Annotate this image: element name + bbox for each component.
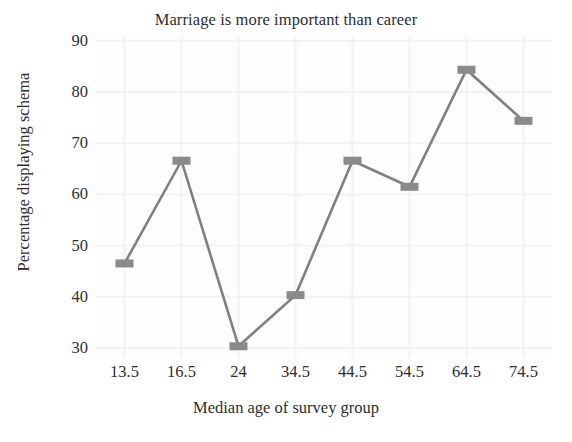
y-tick-label: 60: [46, 184, 88, 204]
y-tick-label: 80: [46, 82, 88, 102]
y-tick-label: 30: [46, 338, 88, 358]
y-tick-label: 90: [46, 31, 88, 51]
x-tick-label: 74.5: [489, 362, 559, 382]
y-tick-label: 70: [46, 133, 88, 153]
y-axis-tick-labels: 30405060708090: [40, 36, 88, 358]
chart-title: Marriage is more important than career: [0, 10, 572, 30]
y-tick-label: 50: [46, 236, 88, 256]
chart-figure: Marriage is more important than career P…: [0, 0, 572, 442]
y-axis-label: Percentage displaying schema: [14, 0, 34, 372]
data-series-line: [96, 36, 552, 358]
x-axis-tick-labels: 13.516.52434.544.554.564.574.5: [96, 362, 552, 388]
x-axis-label: Median age of survey group: [0, 398, 572, 418]
y-tick-label: 40: [46, 287, 88, 307]
plot-area: [96, 36, 552, 358]
